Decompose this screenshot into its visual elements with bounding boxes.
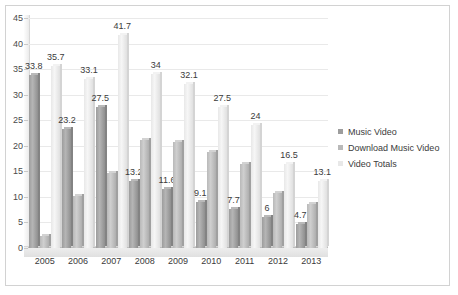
bar-slot: 11.6	[162, 18, 171, 248]
bar-slot	[173, 18, 182, 248]
legend-swatch-icon	[338, 161, 343, 166]
chart-legend: Music VideoDownload Music VideoVideo Tot…	[338, 126, 448, 174]
bar[interactable]	[296, 224, 305, 248]
bar-slot	[273, 18, 282, 248]
legend-item[interactable]: Video Totals	[338, 158, 448, 169]
bar-group: 33.835.7	[28, 18, 61, 248]
bar[interactable]	[173, 142, 182, 248]
bar[interactable]	[84, 79, 93, 248]
bar-group: 616.5	[261, 18, 294, 248]
bar-slot: 34	[151, 18, 160, 248]
bar[interactable]	[140, 140, 149, 248]
bar-face	[173, 142, 182, 248]
bar[interactable]	[262, 217, 271, 248]
y-axis-tick-label: 0	[18, 243, 23, 253]
x-axis-tick-label: 2005	[28, 256, 61, 266]
x-axis-tick-label: 2013	[295, 256, 328, 266]
y-axis-tick-label: 10	[13, 192, 23, 202]
bar-group: 11.632.1	[161, 18, 194, 248]
x-axis-tick-label: 2006	[61, 256, 94, 266]
bar-slot: 13.2	[129, 18, 138, 248]
bar-slot	[240, 18, 249, 248]
legend-label: Music Video	[348, 127, 397, 137]
x-axis-tick-label: 2010	[195, 256, 228, 266]
bar-side	[327, 179, 329, 246]
bar[interactable]	[118, 35, 127, 248]
bar-face	[229, 209, 238, 248]
bar-face	[196, 202, 205, 249]
bar-face	[218, 107, 227, 248]
legend-swatch-icon	[338, 129, 343, 134]
legend-swatch-icon	[338, 145, 343, 150]
bar-slot: 16.5	[284, 18, 293, 248]
bar[interactable]	[207, 152, 216, 248]
y-axis-tick-label: 30	[13, 90, 23, 100]
bar-face	[262, 217, 271, 248]
bar-group: 4.713.1	[295, 18, 328, 248]
bar[interactable]	[129, 181, 138, 248]
bar-face	[162, 189, 171, 248]
bar[interactable]	[107, 173, 116, 248]
bar-group: 23.233.1	[61, 18, 94, 248]
x-axis-tick-labels: 200520062007200820092010201120122013	[28, 256, 328, 266]
bar[interactable]	[196, 202, 205, 249]
bar-slot	[73, 18, 82, 248]
bar-data-label: 6	[264, 203, 269, 213]
bar-slot: 7.7	[229, 18, 238, 248]
bar-slot: 4.7	[296, 18, 305, 248]
bar-face	[51, 66, 60, 248]
bar[interactable]	[40, 236, 49, 248]
bar-group: 9.127.5	[195, 18, 228, 248]
bar[interactable]	[29, 75, 38, 248]
bar-group: 7.724	[228, 18, 261, 248]
bar-face	[273, 193, 282, 248]
bar[interactable]	[307, 204, 316, 248]
bar-face	[84, 79, 93, 248]
bar[interactable]	[229, 209, 238, 248]
bar-face	[296, 224, 305, 248]
bar-slot	[207, 18, 216, 248]
bar-slot	[307, 18, 316, 248]
bar[interactable]	[251, 125, 260, 248]
bar-slot: 24	[251, 18, 260, 248]
bar[interactable]	[62, 129, 71, 248]
bar[interactable]	[151, 74, 160, 248]
bar-face	[184, 84, 193, 248]
bar[interactable]	[73, 196, 82, 248]
bar[interactable]	[96, 107, 105, 248]
x-axis-tick-label: 2012	[261, 256, 294, 266]
bar-slot	[140, 18, 149, 248]
bar-group: 13.234	[128, 18, 161, 248]
x-axis-tick-label: 2008	[128, 256, 161, 266]
x-axis-tick-label: 2009	[161, 256, 194, 266]
y-axis-tick-label: 25	[13, 115, 23, 125]
bar[interactable]	[318, 181, 327, 248]
bar-face	[107, 173, 116, 248]
y-axis-tick-label: 5	[18, 217, 23, 227]
plot-area: 051015202530354045 33.835.723.233.127.54…	[28, 18, 328, 248]
bar-slot: 35.7	[51, 18, 60, 248]
bar[interactable]	[240, 164, 249, 248]
bar-slot: 32.1	[184, 18, 193, 248]
legend-item[interactable]: Music Video	[338, 126, 448, 137]
bar-slot: 27.5	[96, 18, 105, 248]
legend-label: Video Totals	[348, 159, 397, 169]
bar-slot: 27.5	[218, 18, 227, 248]
bar-face	[240, 164, 249, 248]
bar-slot: 41.7	[118, 18, 127, 248]
bar[interactable]	[284, 164, 293, 248]
bar[interactable]	[184, 84, 193, 248]
bar[interactable]	[218, 107, 227, 248]
bar[interactable]	[273, 193, 282, 248]
y-axis-tick-label: 40	[13, 39, 23, 49]
bar-data-label: 4.7	[294, 210, 307, 220]
y-axis-tick-label: 35	[13, 64, 23, 74]
bar[interactable]	[162, 189, 171, 248]
x-axis-tick-label: 2007	[95, 256, 128, 266]
bar[interactable]	[51, 66, 60, 248]
chart-screenshot: 051015202530354045 33.835.723.233.127.54…	[0, 0, 458, 295]
bar-slot: 9.1	[196, 18, 205, 248]
legend-label: Download Music Video	[348, 143, 439, 153]
bar-slot: 6	[262, 18, 271, 248]
legend-item[interactable]: Download Music Video	[338, 142, 448, 153]
